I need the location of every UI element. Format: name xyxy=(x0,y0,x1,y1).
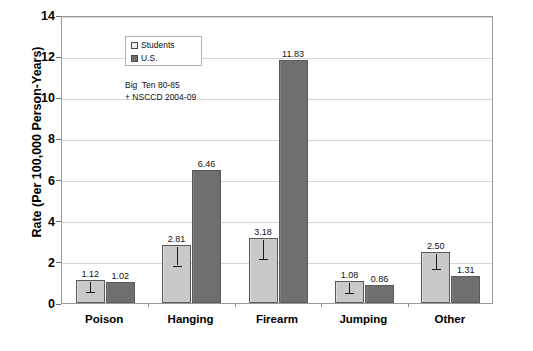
legend-label-students: Students xyxy=(141,41,175,50)
category-separator xyxy=(235,303,236,307)
gridline xyxy=(62,181,492,182)
y-axis-tick-label: 8 xyxy=(15,133,55,146)
chart-annotation: Big Ten 80-85 + NSCCD 2004-09 xyxy=(125,79,196,104)
gridline xyxy=(62,222,492,223)
bar-value-label: 0.86 xyxy=(357,275,402,284)
bar-value-label: 1.31 xyxy=(443,266,488,275)
bar-other-us xyxy=(451,276,480,303)
error-bar-stem xyxy=(436,254,437,270)
bar-value-label: 2.50 xyxy=(413,242,458,251)
y-axis-tick-label: 0 xyxy=(15,298,55,311)
legend-item-us: U.S. xyxy=(131,53,201,64)
plot-area: 1.121.022.816.463.1811.831.080.862.501.3… xyxy=(61,16,493,304)
bar-value-label: 1.02 xyxy=(98,272,143,281)
bar-firearm-us xyxy=(279,60,308,303)
y-axis-tick-label: 6 xyxy=(15,175,55,188)
y-axis-tick-label: 14 xyxy=(15,10,55,23)
error-bar-stem xyxy=(177,247,178,265)
legend-label-us: U.S. xyxy=(141,54,158,63)
error-bar-cap xyxy=(259,259,268,260)
y-axis-tick-label: 4 xyxy=(15,216,55,229)
gridline xyxy=(62,140,492,141)
error-bar-cap xyxy=(86,292,95,293)
bar-value-label: 11.83 xyxy=(271,50,316,59)
x-axis-label-poison: Poison xyxy=(61,313,147,325)
error-bar-stem xyxy=(263,240,264,259)
x-axis-label-other: Other xyxy=(407,313,493,325)
error-bar-stem xyxy=(349,283,350,293)
x-axis-label-firearm: Firearm xyxy=(234,313,320,325)
error-bar-cap xyxy=(432,269,441,270)
y-axis-tick-label: 2 xyxy=(15,257,55,270)
error-bar-stem xyxy=(90,282,91,292)
legend-item-students: Students xyxy=(131,40,201,51)
category-separator xyxy=(321,303,322,307)
gridline xyxy=(62,17,492,18)
bar-hanging-us xyxy=(192,170,221,303)
category-separator xyxy=(408,303,409,307)
bar-poison-us xyxy=(106,282,135,303)
y-axis-tick-label: 12 xyxy=(15,51,55,64)
bar-chart: Rate (Per 100,000 Person-Years) 02468101… xyxy=(0,0,533,351)
y-axis-tick-label: 10 xyxy=(15,92,55,105)
legend: Students U.S. xyxy=(125,36,202,66)
bar-jumping-us xyxy=(365,285,394,303)
category-separator xyxy=(148,303,149,307)
bar-value-label: 6.46 xyxy=(184,160,229,169)
legend-swatch-us-icon xyxy=(131,55,138,62)
error-bar-cap xyxy=(173,266,182,267)
legend-swatch-students-icon xyxy=(131,42,138,49)
x-axis-label-hanging: Hanging xyxy=(147,313,233,325)
error-bar-cap xyxy=(345,293,354,294)
x-axis-label-jumping: Jumping xyxy=(320,313,406,325)
